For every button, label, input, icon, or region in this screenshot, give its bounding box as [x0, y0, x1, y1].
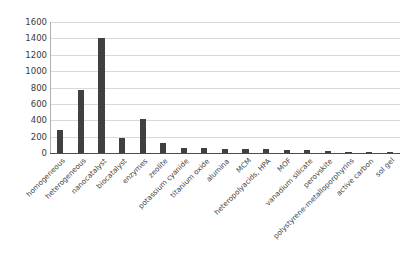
x-axis-category-label: polystyrene-metalloporphyrins [272, 157, 355, 240]
y-axis-tick-label: 800 [3, 83, 47, 92]
x-axis-line [50, 153, 400, 154]
x-axis-category-label: heteropolyacids, HPA [213, 157, 272, 216]
bar [140, 119, 146, 153]
y-axis-tick-label: 1200 [3, 51, 47, 60]
bar [222, 149, 228, 154]
bar [160, 143, 166, 153]
bar [98, 38, 104, 153]
bar [78, 90, 84, 153]
x-axis-category-label: perovskite [302, 157, 334, 189]
y-axis-tick-label: 200 [3, 132, 47, 141]
bar [263, 149, 269, 153]
bar-chart: 02004006008001000120014001600 homogeneou… [0, 0, 413, 271]
bar [325, 151, 331, 153]
x-axis-category-label: potassium cyanide [137, 157, 190, 210]
x-axis-category-label: vanadium silicate [264, 157, 314, 207]
x-axis-category-label: nanocatalyst [70, 157, 108, 195]
x-axis-category-label: active carbon [335, 157, 375, 197]
bar [201, 148, 207, 153]
y-axis-tick-label: 600 [3, 100, 47, 109]
x-axis-category-label: biocatalyst [95, 157, 128, 190]
bars-container [50, 22, 400, 153]
x-axis-category-label: heterogeneous [44, 157, 87, 200]
x-axis-category-label: sol gel [374, 157, 396, 179]
bar [181, 148, 187, 153]
bar [242, 149, 248, 153]
bar [119, 138, 125, 153]
y-axis-tick-label: 0 [3, 149, 47, 158]
bar [57, 130, 63, 153]
x-axis-category-label: titanium oxide [169, 157, 211, 199]
bar [304, 150, 310, 153]
bar [387, 152, 393, 153]
y-axis-tick-label: 1400 [3, 34, 47, 43]
y-axis-tick-label: 1000 [3, 67, 47, 76]
y-axis-tick-label: 400 [3, 116, 47, 125]
y-axis-tick-labels: 02004006008001000120014001600 [0, 0, 47, 271]
x-axis-category-label: alumina [205, 157, 231, 183]
bar [366, 152, 372, 153]
x-axis-category-label: MCM [235, 157, 252, 174]
x-axis-category-label: MOF [276, 157, 292, 173]
y-axis-tick-label: 1600 [3, 18, 47, 27]
bar [345, 152, 351, 153]
x-axis-category-label: zeolite [147, 157, 169, 179]
x-axis-category-label: enzymes [121, 157, 149, 185]
bar [284, 150, 290, 153]
